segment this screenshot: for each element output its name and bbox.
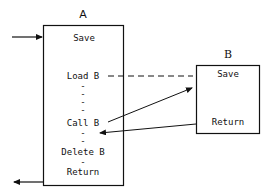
step-a-load-b: Load B [67, 71, 100, 81]
step-a-delete-b: Delete B [61, 147, 104, 157]
step-b-save: Save [217, 69, 239, 79]
step-a-return: Return [67, 167, 100, 177]
procedure-b-title: B [224, 49, 232, 61]
dash-marker: - [80, 136, 85, 146]
return-arrow [100, 124, 196, 133]
dash-marker: - [80, 105, 85, 115]
diagram-lines [0, 0, 269, 195]
dash-marker: - [80, 157, 85, 167]
step-b-return: Return [212, 117, 245, 127]
diagram-canvas: A B Save Load B - - - - Call B - - Delet… [0, 0, 269, 195]
procedure-a-title: A [79, 9, 87, 21]
step-a-save: Save [73, 33, 95, 43]
call-arrow [108, 88, 192, 122]
step-a-call-b: Call B [67, 118, 100, 128]
